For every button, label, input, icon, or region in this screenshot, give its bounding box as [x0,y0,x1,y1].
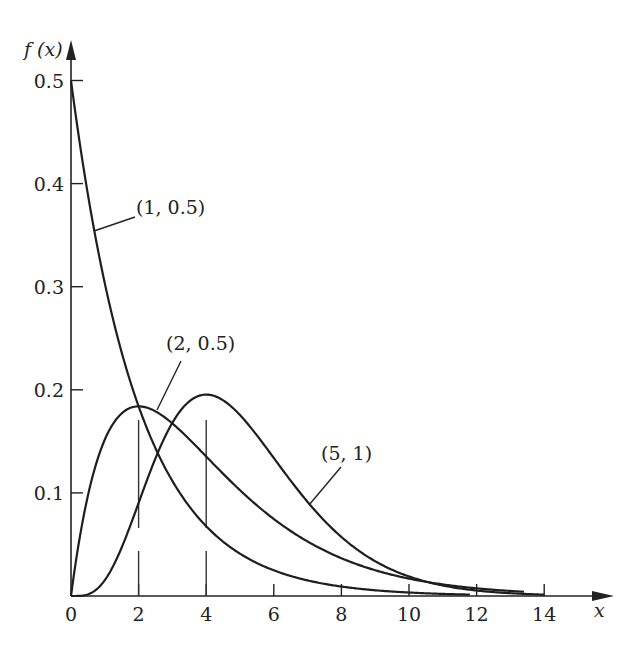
density-curves [71,81,544,597]
y-axis-label: f (x) [22,38,63,60]
curve-labels: (1, 0.5) (2, 0.5) (5, 1) [94,196,372,505]
axes: f (x) x [22,38,614,621]
y-tick-label: 0.5 [34,70,64,92]
curve-label-3: (5, 1) [321,442,372,464]
x-axis-label: x [594,599,605,621]
x-tick-label: 14 [532,603,556,625]
curve-3 [71,395,544,596]
y-ticks: 0.10.20.30.40.5 [34,70,83,504]
x-tick-label: 6 [268,603,280,625]
x-tick-label: 2 [133,603,145,625]
x-tick-label: 0 [65,603,77,625]
leader-line-curve-2 [157,361,181,410]
x-tick-label: 4 [200,603,212,625]
curve-label-2: (2, 0.5) [166,332,235,354]
y-axis-arrow-icon [66,40,76,60]
y-tick-label: 0.3 [34,276,64,298]
y-tick-label: 0.2 [34,379,64,401]
leader-line-curve-3 [309,467,341,505]
x-tick-label: 8 [335,603,347,625]
x-tick-label: 12 [465,603,489,625]
y-tick-label: 0.4 [34,173,64,195]
gamma-density-chart: f (x) x 02468101214 0.10.20.30.40.5 (1, … [0,0,642,662]
curve-label-1: (1, 0.5) [136,196,205,218]
x-tick-label: 10 [397,603,421,625]
leader-line-curve-1 [94,217,135,231]
y-tick-label: 0.1 [34,482,64,504]
